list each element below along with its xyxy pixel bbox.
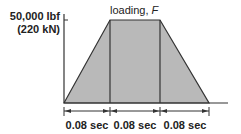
y-label-force: 50,000 lbf xyxy=(10,10,60,22)
interval-label-1: 0.08 sec xyxy=(66,119,109,131)
loading-title: loading, F xyxy=(110,4,160,16)
dimension-lines xyxy=(64,107,209,116)
interval-label-3: 0.08 sec xyxy=(164,119,207,131)
load-trapezoid xyxy=(64,20,209,103)
loading-diagram: 50,000 lbf (220 kN) loading, F 0.08 sec … xyxy=(0,0,241,134)
interval-label-2: 0.08 sec xyxy=(114,119,157,131)
y-label-metric: (220 kN) xyxy=(17,23,60,35)
